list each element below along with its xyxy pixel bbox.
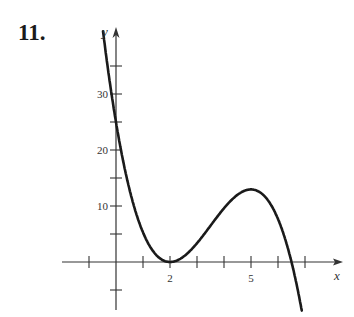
ticks	[89, 66, 305, 290]
y-tick-label: 20	[97, 144, 109, 156]
tick-labels: 25102030	[97, 88, 254, 284]
x-tick-label: 5	[248, 272, 254, 284]
function-graph: 25102030 x y	[0, 0, 354, 317]
y-axis-label: y	[100, 24, 108, 39]
y-tick-label: 10	[97, 200, 109, 212]
x-tick-label: 2	[167, 272, 173, 284]
axes	[62, 27, 343, 310]
x-axis-label: x	[333, 268, 340, 283]
function-curve	[103, 31, 302, 310]
y-tick-label: 30	[97, 88, 109, 100]
